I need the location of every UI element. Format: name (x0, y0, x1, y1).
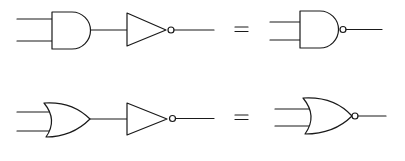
not-gate-symbol (127, 103, 214, 135)
nand-gate-symbol (270, 11, 382, 48)
logic-gate-diagram (0, 0, 405, 161)
equals-sign (235, 27, 248, 32)
row-1-and-not-equals-nand (17, 11, 382, 49)
equals-sign (235, 115, 248, 120)
row-2-or-not-equals-nor (17, 98, 386, 137)
nor-gate-symbol (275, 98, 386, 134)
not-gate-symbol (127, 13, 214, 46)
and-gate-symbol (17, 12, 127, 49)
or-gate-symbol (17, 103, 127, 137)
